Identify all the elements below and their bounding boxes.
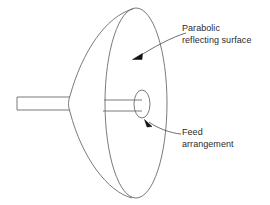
parabolic-back-surface (69, 9, 134, 198)
feed-leader-line (149, 122, 181, 134)
support-rod-outer (17, 97, 70, 110)
annotation-feed-arrangement: Feed arrangement (182, 127, 234, 150)
parabolic-antenna-diagram: Parabolic reflecting surface Feed arrang… (0, 0, 270, 205)
annotation-parabolic-reflecting-surface: Parabolic reflecting surface (182, 23, 251, 46)
annotation-parabolic-line1: Parabolic (182, 23, 251, 35)
support-rod-inner (103, 100, 142, 111)
feed-horn-ellipse (134, 90, 150, 118)
dish-rim-ellipse (105, 8, 167, 198)
parabolic-arrow-head-icon (133, 54, 143, 60)
parabolic-leader-line (138, 33, 186, 57)
annotation-feed-line2: arrangement (182, 139, 234, 151)
annotation-parabolic-line2: reflecting surface (182, 35, 251, 47)
annotation-feed-line1: Feed (182, 127, 234, 139)
